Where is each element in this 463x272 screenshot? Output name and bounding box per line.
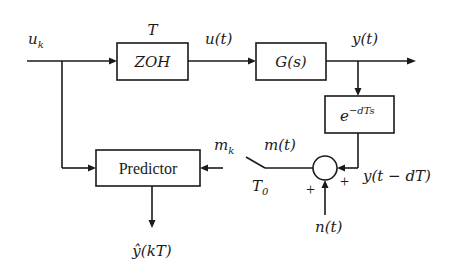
predictor-label: Predictor bbox=[119, 160, 178, 177]
delay-input-arrow bbox=[355, 88, 362, 96]
plant-input-arrow bbox=[248, 58, 256, 65]
summer-delay-arrow bbox=[337, 165, 345, 172]
measured-label: m(t) bbox=[264, 136, 296, 154]
noise-label: n(t) bbox=[315, 218, 343, 236]
delay-base: e bbox=[340, 107, 349, 125]
block-diagram: ZOH T G(s) e−dTs Predictor uk u(t) y(t) … bbox=[0, 0, 463, 272]
noise-arrow bbox=[322, 180, 329, 188]
zoh-label: ZOH bbox=[134, 53, 172, 71]
period-sub: 0 bbox=[262, 186, 269, 197]
delay-sign: + bbox=[340, 173, 349, 190]
switch-period-label: T0 bbox=[252, 177, 269, 197]
sampled-base: m bbox=[214, 136, 228, 154]
output-arrow bbox=[407, 58, 416, 65]
estimate-arrow bbox=[149, 220, 156, 228]
sampled-measured-label: mk bbox=[214, 136, 234, 156]
summing-junction bbox=[313, 156, 337, 180]
plant-label: G(s) bbox=[275, 53, 307, 71]
sampler-switch bbox=[246, 157, 265, 168]
zoh-output-label: u(t) bbox=[205, 30, 233, 48]
noise-sign: + bbox=[306, 181, 315, 198]
delayed-output-label: y(t − dT) bbox=[362, 167, 431, 185]
zoh-sample-label: T bbox=[147, 21, 158, 39]
estimate-label: ŷ(kT) bbox=[131, 242, 171, 260]
input-signal-label: uk bbox=[28, 30, 44, 50]
sampled-sub: k bbox=[228, 145, 234, 156]
input-sub: k bbox=[38, 39, 44, 50]
predictor-input-arrow bbox=[88, 165, 96, 172]
zoh-input-arrow bbox=[109, 58, 117, 65]
delay-exponent: −dTs bbox=[349, 105, 375, 116]
predictor-feedback-arrow bbox=[200, 165, 208, 172]
input-base: u bbox=[28, 30, 38, 48]
plant-output-label: y(t) bbox=[351, 30, 378, 48]
